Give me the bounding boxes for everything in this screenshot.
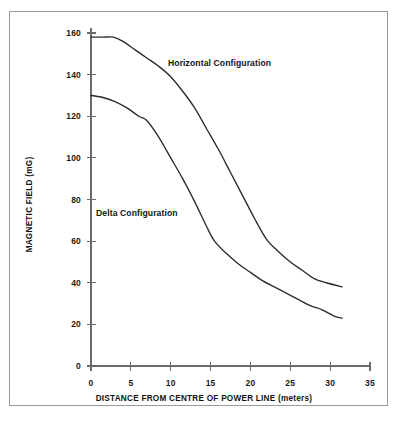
y-tick-label: 0: [55, 361, 81, 371]
y-tick-label: 160: [55, 28, 81, 38]
x-tick-label: 5: [121, 378, 141, 388]
series-line-delta-configuration: [91, 95, 342, 318]
x-tick-label: 10: [161, 378, 181, 388]
data-series: [91, 37, 342, 318]
y-tick-label: 80: [55, 195, 81, 205]
x-axis-title: DISTANCE FROM CENTRE OF POWER LINE (mete…: [0, 394, 408, 403]
y-tick-label: 60: [55, 236, 81, 246]
y-tick-label: 100: [55, 153, 81, 163]
x-tick-label: 30: [320, 378, 340, 388]
series-line-horizontal-configuration: [91, 37, 342, 287]
series-label-horizontal-configuration: Horizontal Configuration: [168, 58, 271, 68]
y-tick-label: 20: [55, 319, 81, 329]
x-tick-label: 20: [240, 378, 260, 388]
y-tick-label: 40: [55, 278, 81, 288]
y-tick-label: 120: [55, 111, 81, 121]
y-tick-label: 140: [55, 70, 81, 80]
x-tick-label: 0: [81, 378, 101, 388]
chart-figure: 020406080100120140160 05101520253035 DIS…: [0, 0, 408, 428]
axes: [87, 28, 371, 371]
y-axis-title: MAGNETIC FIELD (mG): [25, 135, 34, 275]
x-tick-label: 15: [201, 378, 221, 388]
series-label-delta-configuration: Delta Configuration: [96, 208, 178, 218]
x-tick-label: 25: [280, 378, 300, 388]
x-tick-label: 35: [360, 378, 380, 388]
